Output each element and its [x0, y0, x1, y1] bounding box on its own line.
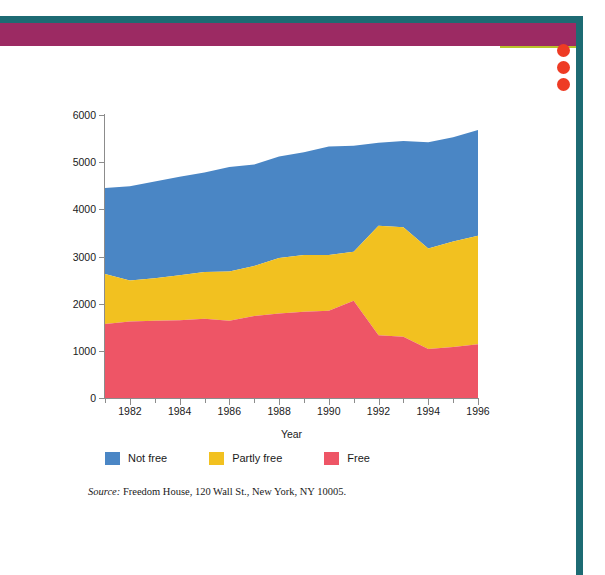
legend-swatch — [209, 452, 224, 465]
y-tick-label: 1000 — [52, 346, 96, 357]
legend-swatch — [105, 452, 120, 465]
x-tick-label: 1988 — [257, 406, 301, 417]
y-tick — [99, 209, 105, 210]
y-tick-label: 4000 — [52, 204, 96, 215]
legend-item-partly-free[interactable]: Partly free — [209, 452, 282, 465]
x-tick-major — [379, 398, 380, 405]
x-tick-major — [180, 398, 181, 405]
x-tick-label: 1994 — [406, 406, 450, 417]
plot-area — [105, 115, 478, 398]
frame-right-bar — [576, 16, 583, 575]
x-tick-minor — [155, 398, 156, 403]
x-axis-line — [104, 398, 479, 399]
x-tick-label: 1990 — [307, 406, 351, 417]
legend-label: Free — [347, 453, 370, 464]
x-tick-minor — [254, 398, 255, 403]
x-tick-label: 1982 — [108, 406, 152, 417]
x-tick-label: 1992 — [357, 406, 401, 417]
y-tick — [99, 398, 105, 399]
x-tick-major — [329, 398, 330, 405]
y-tick-label: 0 — [52, 393, 96, 404]
y-tick — [99, 115, 105, 116]
y-tick — [99, 257, 105, 258]
x-axis-title: Year — [105, 428, 478, 440]
y-tick-label: 2000 — [52, 299, 96, 310]
legend-label: Partly free — [232, 453, 282, 464]
x-tick-label: 1984 — [158, 406, 202, 417]
y-tick — [99, 351, 105, 352]
x-tick-major — [279, 398, 280, 405]
x-tick-minor — [105, 398, 106, 403]
x-tick-label: 1996 — [456, 406, 500, 417]
source-label: Source: — [88, 486, 120, 497]
source-text: Freedom House, 120 Wall St., New York, N… — [120, 486, 346, 497]
x-tick-major — [130, 398, 131, 405]
x-tick-minor — [304, 398, 305, 403]
chart-legend: Not freePartly freeFree — [105, 452, 412, 465]
x-tick-minor — [453, 398, 454, 403]
x-tick-minor — [354, 398, 355, 403]
legend-item-not-free[interactable]: Not free — [105, 452, 167, 465]
y-tick-label: 3000 — [52, 252, 96, 263]
y-tick — [99, 304, 105, 305]
y-tick — [99, 162, 105, 163]
y-tick-label: 6000 — [52, 110, 96, 121]
figure-container: World population (in millions) 010002000… — [0, 0, 576, 575]
y-tick-label: 5000 — [52, 157, 96, 168]
x-tick-major — [428, 398, 429, 405]
x-tick-major — [229, 398, 230, 405]
x-tick-minor — [403, 398, 404, 403]
legend-swatch — [324, 452, 339, 465]
legend-label: Not free — [128, 453, 167, 464]
source-note: Source: Freedom House, 120 Wall St., New… — [88, 486, 518, 497]
x-tick-label: 1986 — [207, 406, 251, 417]
x-tick-minor — [205, 398, 206, 403]
stacked-area-chart — [105, 115, 478, 398]
x-tick-major — [478, 398, 479, 405]
legend-item-free[interactable]: Free — [324, 452, 370, 465]
